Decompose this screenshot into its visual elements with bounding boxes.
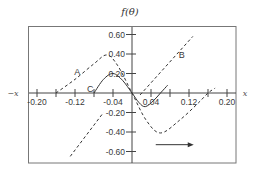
curve-b bbox=[70, 113, 103, 157]
x-tick-label: 0.20 bbox=[219, 97, 236, 107]
arrow-head-icon bbox=[188, 142, 194, 147]
x-tick-label: -0.04 bbox=[103, 97, 123, 107]
x-negative-label: −x bbox=[7, 89, 19, 98]
y-tick-label: 0.60 bbox=[108, 30, 125, 40]
x-positive-label: x bbox=[243, 89, 248, 98]
x-tick-label: -0.12 bbox=[65, 97, 85, 107]
chart-canvas: -0.20-0.12-0.040.040.120.200.600.400.20-… bbox=[0, 0, 253, 172]
x-tick-label: -0.20 bbox=[27, 97, 47, 107]
curve-label-a: A bbox=[74, 67, 80, 77]
y-tick-label: -0.40 bbox=[106, 127, 126, 137]
y-tick-label: -0.20 bbox=[106, 108, 126, 118]
y-tick-label: -0.60 bbox=[106, 147, 126, 157]
chart-title: f(θ) bbox=[120, 6, 139, 17]
curve-label-b: B bbox=[179, 50, 185, 60]
x-tick-label: 0.04 bbox=[143, 97, 160, 107]
curve-label-c: C bbox=[87, 84, 94, 94]
